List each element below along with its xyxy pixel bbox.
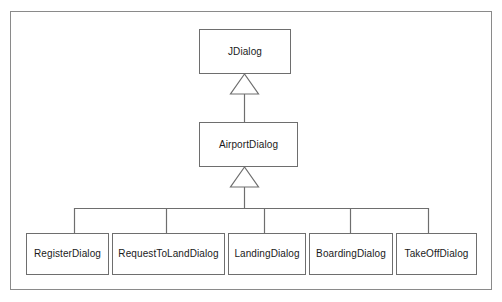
uml-class-diagram: JDialog generalization --> AirportDialog… — [0, 0, 502, 302]
class-box-jdialog[interactable]: JDialog — [199, 29, 291, 74]
class-box-boardingdialog[interactable]: BoardingDialog — [309, 233, 393, 275]
class-name-takeoffdialog: TakeOffDialog — [405, 249, 469, 259]
class-name-airportdialog: AirportDialog — [219, 140, 278, 150]
class-box-takeoffdialog[interactable]: TakeOffDialog — [396, 233, 477, 275]
class-box-landingdialog[interactable]: LandingDialog — [228, 233, 306, 275]
class-name-requesttolanddialog: RequestToLandDialog — [118, 249, 218, 259]
class-box-registerdialog[interactable]: RegisterDialog — [26, 233, 109, 275]
class-box-requesttolanddialog[interactable]: RequestToLandDialog — [112, 233, 225, 275]
class-name-boardingdialog: BoardingDialog — [316, 249, 386, 259]
class-name-landingdialog: LandingDialog — [234, 249, 299, 259]
class-box-airportdialog[interactable]: AirportDialog — [199, 122, 298, 167]
class-name-registerdialog: RegisterDialog — [34, 249, 101, 259]
class-name-jdialog: JDialog — [228, 47, 262, 57]
